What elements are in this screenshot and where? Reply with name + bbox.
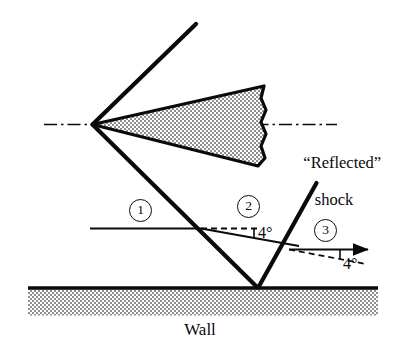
wall-label: Wall <box>150 320 250 339</box>
region-label-3: 3 <box>314 219 337 242</box>
deflection-angle-label-2: 4° <box>343 255 357 273</box>
shock-reflection-diagram: “Reflected” shock Wall 4° 4° 1 2 3 <box>0 0 401 354</box>
deflection-angle-label-1: 4° <box>258 224 272 242</box>
reflected-shock-label-line2: shock <box>272 191 396 209</box>
region-label-1: 1 <box>129 199 152 222</box>
reflected-shock-label-line1: “Reflected” <box>303 153 381 172</box>
wall-hatch-band <box>28 290 378 316</box>
region-label-2: 2 <box>237 195 260 218</box>
